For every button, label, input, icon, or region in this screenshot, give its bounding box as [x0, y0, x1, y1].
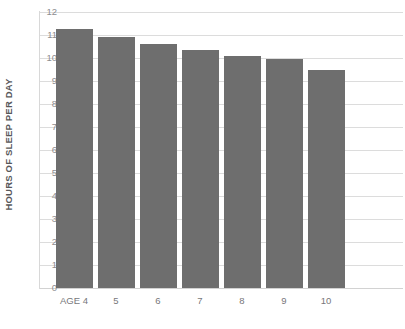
y-axis-title: HOURS OF SLEEP PER DAY: [0, 0, 16, 289]
y-axis-title-text: HOURS OF SLEEP PER DAY: [3, 78, 14, 210]
bar: [140, 44, 177, 288]
x-axis-tick-label: 7: [197, 295, 202, 306]
x-axis-tick-labels: AGE 45678910: [40, 295, 403, 315]
bar: [224, 56, 261, 288]
bar-chart: HOURS OF SLEEP PER DAY 0123456789101112 …: [0, 0, 405, 329]
bar: [308, 70, 345, 289]
x-axis-tick-label: 6: [155, 295, 160, 306]
x-axis-tick-label: 10: [321, 295, 332, 306]
bar: [266, 59, 303, 288]
x-axis-tick-label: 5: [113, 295, 118, 306]
bar: [56, 29, 93, 288]
bar: [182, 50, 219, 288]
x-axis-tick-label: AGE 4: [60, 295, 88, 306]
gridline: [40, 288, 403, 289]
bar: [98, 37, 135, 288]
x-axis-tick-label: 9: [281, 295, 286, 306]
bar-series: [40, 12, 403, 288]
x-axis-tick-label: 8: [239, 295, 244, 306]
